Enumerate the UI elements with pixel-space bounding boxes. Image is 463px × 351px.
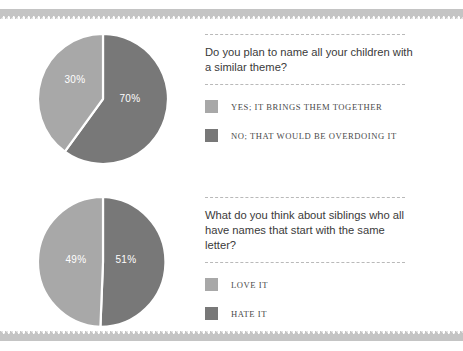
legend-swatch-light-icon	[205, 278, 218, 291]
panel-2-rule-top	[205, 197, 405, 199]
top-border-scallops	[0, 14, 463, 20]
panel-1-question: Do you plan to name all your children wi…	[205, 45, 417, 75]
panel-2-text-column: What do you think about siblings who all…	[205, 191, 435, 336]
pie-2-light-value: 49%	[66, 254, 87, 265]
panel-2-rule-bottom	[205, 262, 405, 264]
panel-2-question: What do you think about siblings who all…	[205, 208, 417, 253]
panel-2-legend: LOVE IT HATE IT	[205, 278, 435, 320]
legend-item: LOVE IT	[205, 278, 435, 291]
legend-swatch-dark-icon	[205, 129, 218, 142]
legend-label: YES; IT BRINGS THEM TOGETHER	[231, 102, 382, 112]
pie-chart-1-svg	[37, 33, 169, 165]
pie-chart-1: 70% 30%	[37, 33, 169, 165]
legend-label: LOVE IT	[231, 280, 268, 290]
top-decorative-border	[0, 9, 463, 20]
pie-chart-1-container: 70% 30%	[0, 28, 205, 165]
pie-1-dark-value: 70%	[120, 93, 141, 104]
pie-chart-2-container: 51% 49%	[0, 191, 205, 328]
panel-1-text-column: Do you plan to name all your children wi…	[205, 28, 435, 158]
legend-swatch-light-icon	[205, 100, 218, 113]
pie-1-light-value: 30%	[65, 74, 86, 85]
panel-1-rule-top	[205, 34, 405, 36]
bottom-decorative-border	[0, 330, 463, 341]
pie-chart-2-svg	[37, 196, 169, 328]
legend-label: HATE IT	[231, 309, 267, 319]
legend-label: NO; THAT WOULD BE OVERDOING IT	[231, 131, 397, 141]
legend-item: NO; THAT WOULD BE OVERDOING IT	[205, 129, 435, 142]
bottom-border-bar	[0, 335, 463, 341]
survey-panel-2: 51% 49% What do you think about siblings…	[0, 191, 463, 336]
panel-1-legend: YES; IT BRINGS THEM TOGETHER NO; THAT WO…	[205, 100, 435, 142]
legend-swatch-dark-icon	[205, 307, 218, 320]
panel-1-rule-bottom	[205, 84, 405, 86]
survey-panel-1: 70% 30% Do you plan to name all your chi…	[0, 28, 463, 165]
legend-item: HATE IT	[205, 307, 435, 320]
pie-2-dark-value: 51%	[116, 254, 137, 265]
legend-item: YES; IT BRINGS THEM TOGETHER	[205, 100, 435, 113]
pie-chart-2: 51% 49%	[37, 196, 169, 328]
